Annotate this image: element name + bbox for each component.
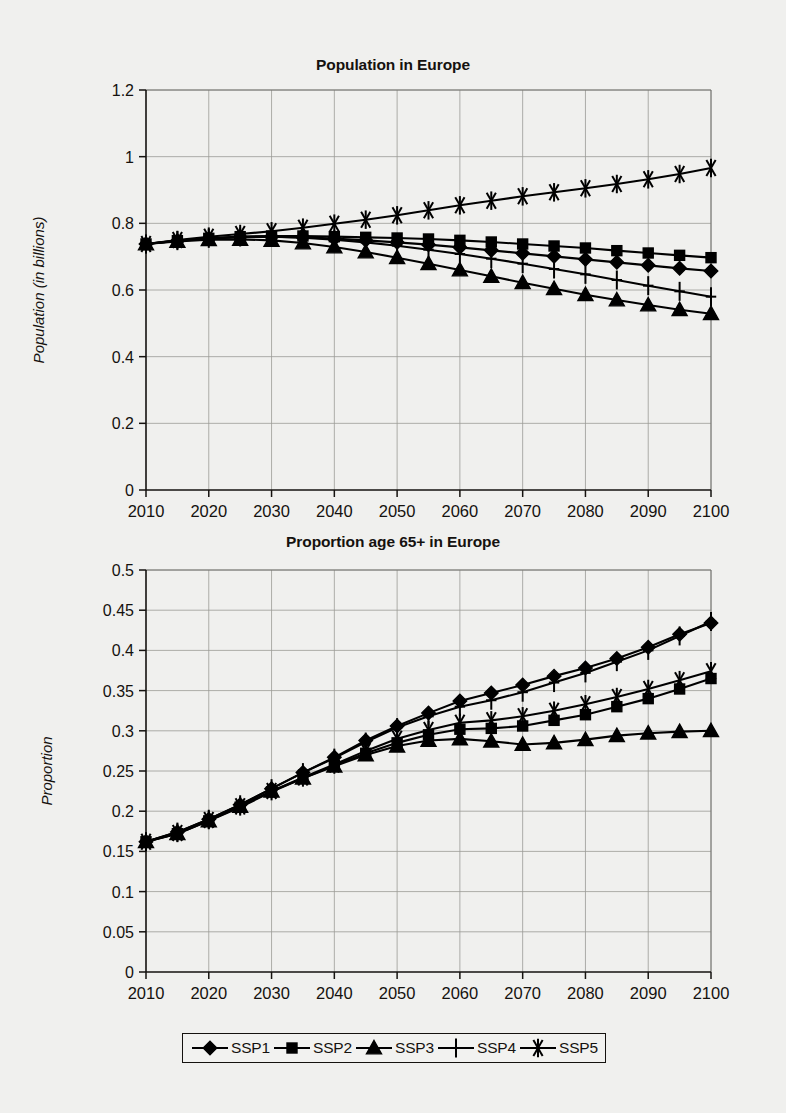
y-tick-label: 0.15: [103, 843, 134, 860]
y-tick-label: 1.2: [112, 82, 134, 99]
asterisk-marker: [518, 1038, 558, 1058]
y-tick-label: 0.2: [112, 415, 134, 432]
x-axis-ticks: 2010202020302040205020602070208020902100: [128, 972, 730, 1002]
y-axis-ticks: 00.20.40.60.811.2: [112, 82, 146, 499]
x-tick-label: 2050: [379, 984, 416, 1002]
legend-label: SSP4: [477, 1039, 516, 1057]
x-tick-label: 2070: [504, 984, 541, 1002]
x-tick-label: 2040: [316, 502, 353, 520]
figure-page: Population in Europe 00.20.40.60.811.220…: [0, 0, 786, 1113]
x-tick-label: 2010: [128, 502, 165, 520]
x-tick-label: 2100: [693, 984, 730, 1002]
y-axis-title: Population (in billions): [30, 217, 47, 364]
x-tick-label: 2100: [693, 502, 730, 520]
chart-panel-proportion: Proportion age 65+ in Europe 00.050.10.1…: [0, 525, 786, 1025]
x-tick-label: 2070: [504, 502, 541, 520]
gridlines: [146, 570, 711, 972]
y-tick-label: 0.3: [112, 723, 134, 740]
population-chart-svg: 00.20.40.60.811.220102020203020402050206…: [0, 48, 786, 528]
chart-legend: SSP1SSP2SSP3SSP4SSP5: [182, 1033, 606, 1063]
x-tick-label: 2030: [253, 984, 290, 1002]
y-tick-label: 0.45: [103, 602, 134, 619]
y-tick-label: 0: [125, 964, 134, 981]
y-tick-label: 1: [125, 149, 134, 166]
y-tick-label: 0.35: [103, 683, 134, 700]
x-tick-label: 2050: [379, 502, 416, 520]
y-tick-label: 0.2: [112, 803, 134, 820]
diamond-marker: [190, 1038, 230, 1058]
y-tick-label: 0.25: [103, 763, 134, 780]
y-tick-label: 0.05: [103, 924, 134, 941]
legend-item-ssp5[interactable]: SSP5: [518, 1038, 598, 1058]
legend-label: SSP1: [231, 1039, 270, 1057]
triangle-marker: [354, 1038, 394, 1058]
y-axis-title: Proportion: [38, 736, 55, 805]
legend-label: SSP3: [395, 1039, 434, 1057]
x-tick-label: 2020: [190, 502, 227, 520]
y-tick-label: 0.8: [112, 215, 134, 232]
y-tick-label: 0.1: [112, 884, 134, 901]
plus-marker: [436, 1038, 476, 1058]
x-tick-label: 2090: [630, 502, 667, 520]
x-tick-label: 2010: [128, 984, 165, 1002]
x-tick-label: 2040: [316, 984, 353, 1002]
y-tick-label: 0.4: [112, 642, 134, 659]
x-tick-label: 2090: [630, 984, 667, 1002]
legend-item-ssp3[interactable]: SSP3: [354, 1038, 434, 1058]
x-tick-label: 2080: [567, 984, 604, 1002]
square-marker: [272, 1038, 312, 1058]
x-tick-label: 2080: [567, 502, 604, 520]
legend-item-ssp4[interactable]: SSP4: [436, 1038, 516, 1058]
series-ssp3: [139, 723, 719, 847]
legend-label: SSP2: [313, 1039, 352, 1057]
y-tick-label: 0.6: [112, 282, 134, 299]
legend-label: SSP5: [559, 1039, 598, 1057]
y-tick-label: 0.4: [112, 349, 134, 366]
legend-item-ssp1[interactable]: SSP1: [190, 1038, 270, 1058]
y-tick-label: 0.5: [112, 562, 134, 579]
proportion-chart-svg: 00.050.10.150.20.250.30.350.40.450.52010…: [0, 525, 786, 1025]
legend-item-ssp2[interactable]: SSP2: [272, 1038, 352, 1058]
x-tick-label: 2060: [442, 984, 479, 1002]
ssp-europe-figure: Population in Europe 00.20.40.60.811.220…: [0, 0, 786, 1113]
x-tick-label: 2060: [442, 502, 479, 520]
chart-panel-population: Population in Europe 00.20.40.60.811.220…: [0, 48, 786, 528]
series-ssp2: [141, 674, 716, 847]
x-tick-label: 2020: [190, 984, 227, 1002]
gridlines: [146, 90, 711, 490]
y-tick-label: 0: [125, 482, 134, 499]
x-axis-ticks: 2010202020302040205020602070208020902100: [128, 490, 730, 520]
x-tick-label: 2030: [253, 502, 290, 520]
y-axis-ticks: 00.050.10.150.20.250.30.350.40.450.5: [103, 562, 146, 981]
